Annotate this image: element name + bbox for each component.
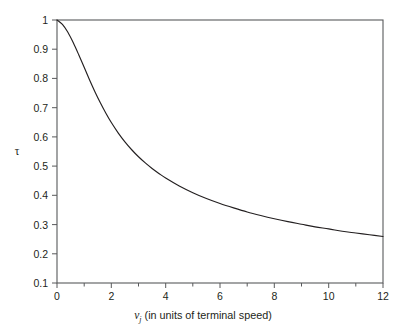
- data-curve-tau: [57, 20, 383, 237]
- y-tick-label: 0.6: [33, 131, 48, 143]
- plot-frame: [57, 20, 383, 283]
- y-tick-label: 0.2: [33, 248, 48, 260]
- x-axis-major-ticks: [57, 283, 383, 288]
- x-axis-title: vj (in units of terminal speed): [134, 309, 272, 324]
- y-tick-label: 0.9: [33, 43, 48, 55]
- x-tick-label: 0: [54, 290, 60, 302]
- y-tick-label: 0.4: [33, 189, 48, 201]
- y-tick-labels: 1 0.9 0.8 0.7 0.6 0.5 0.4 0.3 0.2 0.1: [33, 14, 48, 289]
- y-tick-label: 0.5: [33, 160, 48, 172]
- x-tick-label: 8: [271, 290, 277, 302]
- x-tick-label: 6: [217, 290, 223, 302]
- y-tick-label: 0.8: [33, 72, 48, 84]
- x-tick-label: 4: [163, 290, 169, 302]
- x-tick-label: 10: [323, 290, 335, 302]
- x-tick-labels: 0 2 4 6 8 10 12: [54, 290, 389, 302]
- x-axis-title-rest: (in units of terminal speed): [142, 309, 272, 321]
- y-axis-title: τ: [15, 145, 20, 157]
- y-axis-ticks: [52, 20, 57, 283]
- y-tick-label: 0.7: [33, 102, 48, 114]
- chart-figure: 1 0.9 0.8 0.7 0.6 0.5 0.4 0.3 0.2 0.1 0 …: [0, 0, 407, 330]
- svg-text:vj (in units of terminal speed: vj (in units of terminal speed): [134, 309, 272, 324]
- y-tick-label: 1: [42, 14, 48, 26]
- x-tick-label: 12: [377, 290, 389, 302]
- y-tick-label: 0.1: [33, 277, 48, 289]
- tau-vs-velocity-line-chart: 1 0.9 0.8 0.7 0.6 0.5 0.4 0.3 0.2 0.1 0 …: [0, 0, 407, 330]
- x-tick-label: 2: [108, 290, 114, 302]
- y-tick-label: 0.3: [33, 219, 48, 231]
